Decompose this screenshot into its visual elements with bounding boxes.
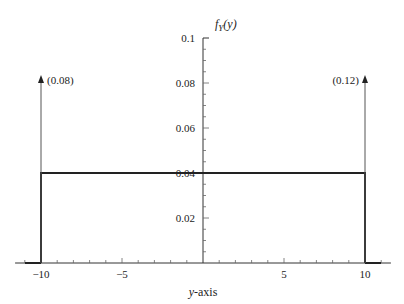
x-tick-label: −5 [116, 268, 128, 280]
density-chart: −10−5510 0.020.040.060.080.1 (0.08)(0.12… [0, 0, 404, 304]
y-tick-label: 0.1 [181, 32, 195, 44]
x-tick-label: 5 [281, 268, 287, 280]
x-axis-label: y-axis [188, 285, 218, 299]
y-tick-label: 0.02 [176, 212, 195, 224]
impulse-mass-label: (0.08) [47, 74, 74, 87]
y-axis-label: fY(y) [215, 17, 237, 33]
x-tick-label: 10 [360, 268, 372, 280]
arrow-head-icon [362, 75, 368, 83]
y-axis: 0.020.040.060.080.1 [176, 32, 209, 263]
impulse-mass-label: (0.12) [332, 74, 359, 87]
arrow-head-icon [38, 75, 44, 83]
x-tick-label: −10 [32, 268, 50, 280]
y-tick-label: 0.06 [176, 122, 196, 134]
y-tick-label: 0.08 [176, 77, 196, 89]
